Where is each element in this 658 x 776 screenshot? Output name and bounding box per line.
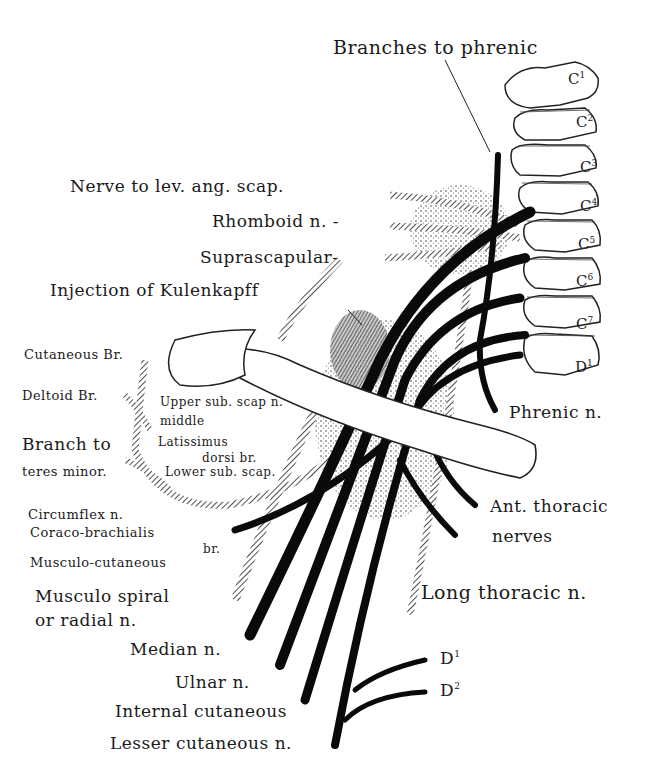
vertebra-c2: C2	[576, 113, 593, 131]
vertebra-c7: C7	[576, 315, 593, 333]
label-deltoid-br: Deltoid Br.	[22, 389, 98, 402]
label-median: Median n.	[130, 641, 221, 658]
brachial-plexus-diagram	[0, 0, 658, 776]
label-branch-to: Branch to	[22, 436, 111, 453]
vertebra-c3: C3	[580, 158, 597, 176]
label-middle: middle	[160, 415, 205, 427]
label-latissimus: Latissimus	[158, 436, 228, 448]
label-nerves: nerves	[492, 528, 553, 545]
label-lesser-cutaneous: Lesser cutaneous n.	[110, 735, 292, 752]
leader-branches-phrenic	[445, 60, 490, 152]
label-coraco-brachialis: Coraco-brachialis	[30, 526, 155, 539]
label-or-radial: or radial n.	[35, 612, 137, 629]
vertebra-c4: C4	[580, 197, 597, 215]
label-branches-to-phrenic: Branches to phrenic	[333, 38, 538, 57]
label-dorsi-br: dorsi br.	[202, 452, 257, 464]
label-injection-kulenkapff: Injection of Kulenkapff	[50, 282, 258, 299]
label-long-thoracic: Long thoracic n.	[421, 583, 587, 602]
label-circumflex: Circumflex n.	[28, 508, 123, 521]
label-suprascapular: Suprascapular-	[200, 249, 338, 266]
vertebra-c6: C6	[576, 272, 593, 290]
label-upper-sub-scap: Upper sub. scap n.	[160, 396, 283, 408]
vertebra-c1: C1	[568, 70, 585, 88]
vertebra-d1: D1	[575, 358, 593, 376]
label-br: br.	[203, 543, 220, 555]
label-phrenic-n: Phrenic n.	[509, 404, 602, 421]
label-musculo-cutaneous: Musculo-cutaneous	[30, 556, 166, 569]
label-nerve-to-lev-ang-scap: Nerve to lev. ang. scap.	[70, 178, 284, 195]
label-teres-minor: teres minor.	[22, 465, 107, 478]
label-musculo-spiral: Musculo spiral	[35, 588, 169, 605]
label-ant-thoracic: Ant. thoracic	[490, 498, 608, 515]
label-ulnar: Ulnar n.	[175, 674, 250, 691]
label-cutaneous-br: Cutaneous Br.	[24, 348, 123, 361]
label-lower-sub-scap: Lower sub. scap.	[165, 466, 276, 478]
label-d1-intercostal: D1	[440, 650, 460, 667]
vertebra-c5: C5	[578, 235, 595, 253]
label-internal-cutaneous: Internal cutaneous	[115, 703, 287, 720]
label-rhomboid: Rhomboid n. -	[212, 213, 339, 230]
label-d2-intercostal: D2	[440, 682, 460, 699]
